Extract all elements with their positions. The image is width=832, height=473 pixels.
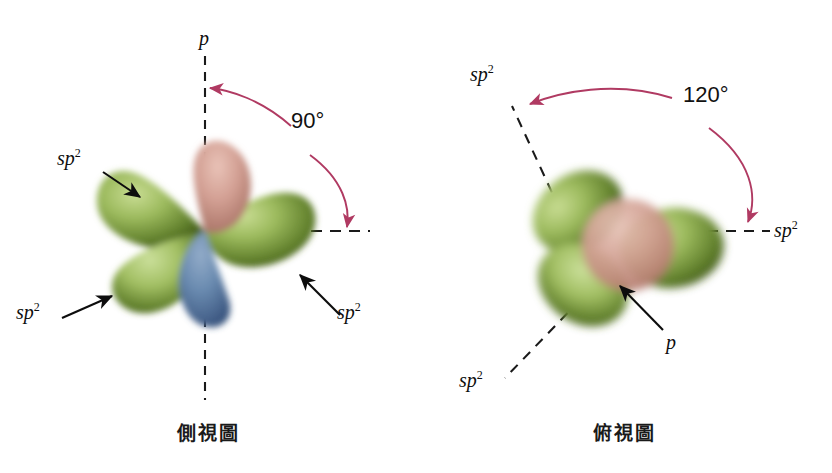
side-view-panel: p sp2 sp2 sp2 90° <box>0 0 416 473</box>
label-sp2-upper-left-top-view: sp2 <box>470 62 494 86</box>
angle-label-120: 120° <box>683 82 729 108</box>
label-sp2-lower-left: sp2 <box>16 300 40 324</box>
top-view-panel: sp2 sp2 sp2 p 120° <box>416 0 832 473</box>
label-sp2-lower-left-top-view: sp2 <box>459 368 483 392</box>
caption-top-view: 俯視圖 <box>416 418 832 445</box>
caption-side-view: 側視圖 <box>0 418 416 445</box>
label-sp2-right-top-view: sp2 <box>774 218 798 242</box>
label-sp2-upper-left: sp2 <box>57 146 81 170</box>
angle-label-90: 90° <box>291 108 324 134</box>
label-p-center-top-view: p <box>666 330 676 354</box>
orbital-diagram-figure: p sp2 sp2 sp2 90° sp2 sp2 sp2 p 120° 側視圖… <box>0 0 832 473</box>
label-p-top: p <box>199 26 209 50</box>
label-sp2-lower-right: sp2 <box>337 300 361 324</box>
